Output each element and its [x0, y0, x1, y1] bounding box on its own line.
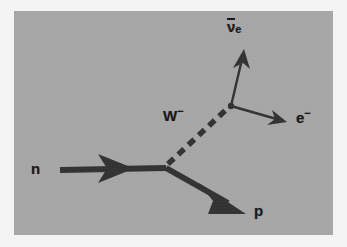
electron-charge-glyph: −: [304, 107, 310, 119]
wboson-symbol-glyph: W: [163, 107, 177, 124]
label-neutron: n: [31, 161, 40, 176]
antineutrino-line: [231, 49, 250, 106]
electron-line: [231, 106, 287, 125]
label-w-boson: W−: [163, 108, 184, 123]
label-antineutrino: νe: [227, 18, 241, 34]
figure-root: νe e− W− n p: [0, 0, 347, 247]
electron-shaft: [231, 106, 280, 120]
proton-line: [166, 168, 246, 214]
wboson-charge-glyph: −: [177, 105, 183, 117]
antineutrino-subscript: e: [235, 23, 241, 35]
label-proton: p: [254, 203, 263, 218]
label-electron: e−: [296, 110, 311, 125]
neutron-line: [60, 154, 166, 183]
